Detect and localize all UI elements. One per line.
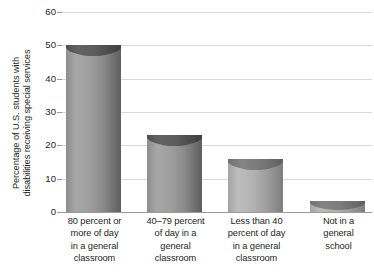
bar-2 [228,159,283,212]
y-axis-title-line-1: Percentage of U.S. students with [11,57,22,189]
x-axis-label-2-line-3: in a general [217,240,296,252]
tick-stub-10 [57,179,62,180]
x-axis-label-0-line-4: classroom [55,252,134,264]
x-axis-label-1-line-4: classroom [136,252,215,264]
tick-stub-60 [57,12,62,13]
tick-stub-30 [57,112,62,113]
y-tick-label-20: 20 [45,140,56,150]
plot-area: 60 50 40 30 20 10 0 [62,12,372,212]
y-axis-title-line-2: disabilities receiving special services [22,50,33,197]
bar-0-body [66,45,121,212]
tick-stub-40 [57,79,62,80]
x-axis-label-0-line-3: in a general [55,240,134,252]
bar-chart: Percentage of U.S. students with disabil… [0,0,374,278]
x-axis-label-2-line-1: Less than 40 [217,215,296,227]
gridline-60: 60 [62,12,372,13]
bar-1 [147,135,202,212]
y-axis-title: Percentage of U.S. students with disabil… [7,23,37,223]
bar-3 [310,201,365,212]
x-axis-label-2-line-2: percent of day [217,227,296,239]
tick-stub-50 [57,45,62,46]
y-tick-label-30: 30 [45,107,56,117]
bar-0 [66,45,121,212]
tick-stub-0 [57,212,62,213]
x-axis-baseline: 0 [62,212,372,213]
x-axis-label-1-line-2: of day in a [136,227,215,239]
bar-1-body [147,135,202,212]
x-axis-label-0: 80 percent or more of day in a general c… [55,215,134,265]
x-axis-label-1-line-3: general [136,240,215,252]
x-axis-label-0-line-2: more of day [55,227,134,239]
x-axis-label-2: Less than 40 percent of day in a general… [217,215,296,265]
x-axis-label-3: Not in a general school [299,215,374,252]
x-axis-label-2-line-4: classroom [217,252,296,264]
tick-stub-20 [57,145,62,146]
y-tick-label-50: 50 [45,40,56,50]
y-tick-label-40: 40 [45,74,56,84]
x-axis-label-3-line-2: general [299,227,374,239]
x-axis-label-3-line-3: school [299,240,374,252]
x-axis-label-0-line-1: 80 percent or [55,215,134,227]
x-axis-label-1-line-1: 40–79 percent [136,215,215,227]
x-axis-label-3-line-1: Not in a [299,215,374,227]
y-tick-label-60: 60 [45,7,56,17]
x-axis-label-1: 40–79 percent of day in a general classr… [136,215,215,265]
y-tick-label-10: 10 [45,174,56,184]
x-axis-labels: 80 percent or more of day in a general c… [62,215,372,275]
